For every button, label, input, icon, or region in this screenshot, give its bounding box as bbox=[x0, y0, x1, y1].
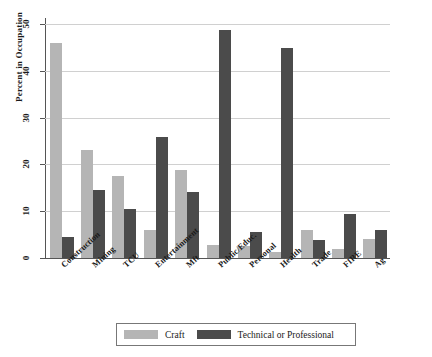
bar-group bbox=[50, 24, 74, 258]
bar bbox=[50, 43, 62, 258]
bar-group bbox=[269, 24, 293, 258]
legend-swatch bbox=[197, 330, 231, 339]
y-tick-mark bbox=[40, 118, 45, 119]
bar-chart-figure: Percent in Occupation 01020304050 Constr… bbox=[0, 0, 432, 357]
y-tick-mark bbox=[40, 258, 45, 259]
legend: CraftTechnical or Professional bbox=[116, 323, 356, 346]
y-tick-label: 20 bbox=[15, 157, 37, 171]
bar bbox=[219, 30, 231, 258]
y-tick-mark bbox=[40, 164, 45, 165]
y-tick-label-text: 50 bbox=[19, 13, 33, 35]
bar-group bbox=[81, 24, 105, 258]
bar-group bbox=[363, 24, 387, 258]
bar bbox=[332, 249, 344, 258]
bar bbox=[144, 230, 156, 258]
legend-label: Technical or Professional bbox=[238, 330, 334, 340]
bar bbox=[375, 230, 387, 258]
y-tick-label-text: 40 bbox=[19, 60, 33, 82]
y-tick-label: 50 bbox=[15, 17, 37, 31]
bar-group bbox=[112, 24, 136, 258]
plot-area: 01020304050 bbox=[45, 24, 390, 258]
bar bbox=[93, 190, 105, 258]
legend-label: Craft bbox=[165, 330, 185, 340]
y-tick-label: 0 bbox=[15, 251, 37, 265]
bar bbox=[281, 48, 293, 258]
y-tick-mark bbox=[40, 71, 45, 72]
y-tick-mark bbox=[40, 211, 45, 212]
y-tick-label-text: 0 bbox=[19, 247, 33, 269]
legend-item: Craft bbox=[124, 330, 197, 340]
bar-group bbox=[175, 24, 199, 258]
bar bbox=[112, 176, 124, 258]
y-tick-label-text: 30 bbox=[19, 107, 33, 129]
bar-group bbox=[332, 24, 356, 258]
bar bbox=[301, 230, 313, 258]
bar bbox=[156, 137, 168, 258]
bar bbox=[207, 245, 219, 258]
y-tick-mark bbox=[40, 24, 45, 25]
legend-item: Technical or Professional bbox=[197, 330, 346, 340]
y-axis-line bbox=[45, 18, 46, 258]
legend-swatch bbox=[124, 330, 158, 339]
bar bbox=[363, 239, 375, 258]
y-tick-label: 40 bbox=[15, 64, 37, 78]
bar-group bbox=[301, 24, 325, 258]
y-tick-label: 30 bbox=[15, 111, 37, 125]
y-tick-label: 10 bbox=[15, 204, 37, 218]
bar-group bbox=[207, 24, 231, 258]
bar-group bbox=[144, 24, 168, 258]
bar-group bbox=[238, 24, 262, 258]
y-tick-label-text: 10 bbox=[19, 200, 33, 222]
y-tick-label-text: 20 bbox=[19, 153, 33, 175]
